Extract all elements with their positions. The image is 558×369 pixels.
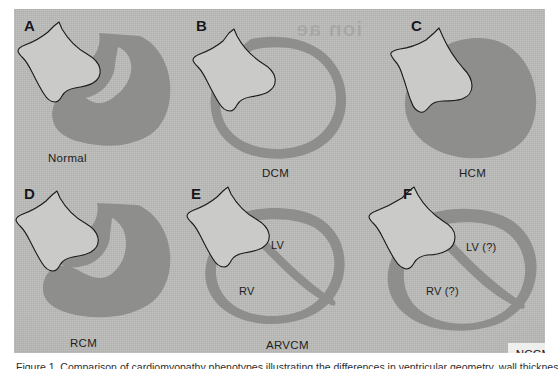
panel-letter-b: B bbox=[196, 17, 207, 34]
panel-e-arvcm: E LV RV ARVCM bbox=[179, 181, 364, 353]
panel-letter-f: F bbox=[403, 185, 412, 202]
figure-caption: Figure 1. Comparison of cardiomyopathy p… bbox=[16, 361, 558, 369]
panel-c-hcm: C HCM bbox=[359, 9, 545, 184]
panel-letter-d: D bbox=[24, 185, 35, 202]
panel-caption-normal: Normal bbox=[48, 152, 87, 164]
cardiomyopathy-figure: ion ae A Normal B DCM bbox=[0, 0, 558, 369]
nccm-badge-label: NCCM bbox=[516, 348, 545, 354]
chamber-label-rv-f: RV (?) bbox=[426, 285, 459, 297]
panel-caption-arvcm: ARVCM bbox=[266, 339, 309, 351]
panel-caption-hcm: HCM bbox=[459, 167, 486, 179]
panel-letter-a: A bbox=[24, 17, 35, 34]
panel-d-heart-drawing bbox=[14, 181, 189, 331]
panel-c-heart-drawing bbox=[359, 9, 545, 169]
panel-d-rcm: D RCM bbox=[14, 181, 189, 353]
panel-f-heart-drawing bbox=[359, 181, 545, 339]
chamber-label-lv-e: LV bbox=[271, 239, 284, 251]
panel-caption-rcm: RCM bbox=[70, 337, 97, 349]
panel-caption-dcm: DCM bbox=[262, 167, 289, 179]
nccm-badge: NCCM bbox=[508, 343, 545, 353]
chamber-label-rv-e: RV bbox=[239, 285, 254, 297]
panel-f-nccm: F LV (?) RV (?) bbox=[359, 181, 545, 353]
panel-letter-e: E bbox=[191, 185, 201, 202]
panel-b-dcm: B DCM bbox=[179, 9, 364, 184]
panel-e-heart-drawing bbox=[179, 181, 364, 336]
panel-letter-c: C bbox=[411, 17, 422, 34]
chamber-label-lv-f: LV (?) bbox=[466, 241, 496, 253]
panel-a-heart-drawing bbox=[14, 9, 189, 159]
scanned-figure-plate: ion ae A Normal B DCM bbox=[14, 9, 545, 353]
panel-a-normal: A Normal bbox=[14, 9, 189, 179]
